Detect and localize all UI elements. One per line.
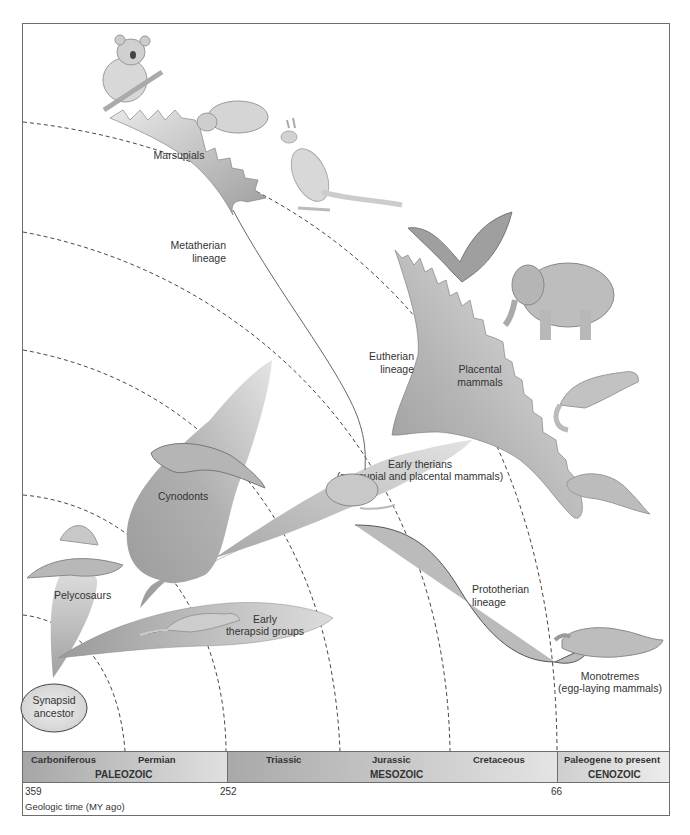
- svg-text:Cynodonts: Cynodonts: [158, 490, 208, 502]
- tick-66: 66: [551, 786, 562, 797]
- period-paleogene-to-present: Paleogene to present: [564, 754, 660, 765]
- tick-252: 252: [220, 786, 237, 797]
- svg-text:Early: Early: [253, 613, 278, 625]
- clade-pelycosaurs: Pelycosaurs: [51, 566, 111, 678]
- svg-text:Marsupials: Marsupials: [154, 149, 205, 161]
- svg-text:Placental: Placental: [458, 363, 501, 375]
- svg-text:lineage: lineage: [380, 363, 414, 375]
- diagram-canvas: Synapsid ancestor Pelycosaurs Early ther…: [0, 0, 690, 835]
- period-cretaceous: Cretaceous: [473, 754, 525, 765]
- era-label-cenozoic: CENOZOIC: [588, 769, 641, 780]
- synapsid-ancestor-node: Synapsid ancestor: [21, 684, 87, 732]
- platypus-icon: [555, 628, 663, 658]
- period-triassic: Triassic: [266, 754, 301, 765]
- clade-cynodonts: Cynodonts: [127, 360, 345, 608]
- dimetrodon-icon: [27, 526, 123, 578]
- svg-text:Pelycosaurs: Pelycosaurs: [54, 589, 111, 601]
- phylogeny-diagram: Synapsid ancestor Pelycosaurs Early ther…: [0, 0, 690, 835]
- svg-text:Early therians: Early therians: [388, 458, 452, 470]
- axis-label: Geologic time (MY ago): [25, 801, 125, 812]
- svg-text:Prototherian: Prototherian: [472, 583, 529, 595]
- svg-text:lineage: lineage: [192, 252, 226, 264]
- era-label-mesozoic: MESOZOIC: [370, 769, 423, 780]
- ferret-icon: [556, 372, 638, 430]
- svg-text:mammals: mammals: [457, 376, 503, 388]
- svg-text:(egg-laying mammals): (egg-laying mammals): [558, 682, 662, 694]
- koala-icon: [103, 35, 162, 110]
- tick-359: 359: [25, 786, 42, 797]
- era-paleozoic: Carboniferous Permian PALEOZOIC: [23, 751, 227, 783]
- period-carboniferous: Carboniferous: [31, 754, 96, 765]
- svg-text:Synapsid: Synapsid: [32, 694, 75, 706]
- svg-text:lineage: lineage: [472, 596, 506, 608]
- svg-text:Monotremes: Monotremes: [581, 670, 639, 682]
- kangaroo-icon: [281, 118, 402, 210]
- wombat-icon: [197, 101, 268, 133]
- elephant-icon: [505, 263, 614, 340]
- period-jurassic: Jurassic: [372, 754, 411, 765]
- era-cenozoic: Paleogene to present CENOZOIC: [557, 751, 669, 783]
- svg-text:Metatherian: Metatherian: [171, 239, 227, 251]
- svg-text:therapsid groups: therapsid groups: [226, 625, 304, 637]
- era-label-paleozoic: PALEOZOIC: [95, 769, 153, 780]
- period-permian: Permian: [138, 754, 176, 765]
- svg-text:ancestor: ancestor: [34, 707, 75, 719]
- svg-text:Eutherian: Eutherian: [369, 350, 414, 362]
- era-mesozoic: Triassic Jurassic Cretaceous MESOZOIC: [227, 751, 557, 783]
- geologic-timeline: Carboniferous Permian PALEOZOIC Triassic…: [23, 751, 669, 816]
